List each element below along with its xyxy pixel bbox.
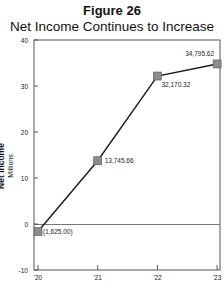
y-tick-label: 0 <box>24 221 28 228</box>
x-tick-label: '20 <box>34 274 43 281</box>
y-axis: 403020100-10 <box>19 37 38 274</box>
data-point-marker <box>213 60 221 68</box>
y-tick-label: 30 <box>21 83 29 90</box>
line-chart: 403020100-10 '20'21'22'23 (1,625.00)13,7… <box>0 0 224 286</box>
data-label: 32,170.32 <box>161 81 190 88</box>
y-tick-label: -10 <box>19 267 29 274</box>
y-tick-label: 20 <box>21 129 29 136</box>
series-line <box>38 64 217 232</box>
x-tick-label: '23 <box>213 274 222 281</box>
y-axis-units: Millions <box>6 126 16 206</box>
x-axis: '20'21'22'23 <box>34 265 222 281</box>
data-label: 13,745.66 <box>105 157 134 164</box>
data-label: (1,625.00) <box>43 228 73 236</box>
data-point-marker <box>153 72 161 80</box>
plot-frame <box>34 40 220 270</box>
y-axis-label: Net Income Millions <box>0 126 20 206</box>
series-net-income: (1,625.00)13,745.6632,170.3234,795.62 <box>34 50 221 237</box>
data-point-marker <box>34 227 42 235</box>
x-tick-label: '22 <box>153 274 162 281</box>
y-tick-label: 10 <box>21 175 29 182</box>
y-tick-label: 40 <box>21 37 29 44</box>
data-label: 34,795.62 <box>185 50 214 57</box>
data-point-marker <box>94 157 102 165</box>
x-tick-label: '21 <box>93 274 102 281</box>
